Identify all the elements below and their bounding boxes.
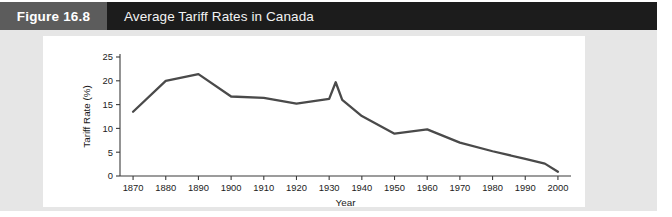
x-axis-tick-label: 1870: [123, 182, 144, 193]
x-axis-tick-label: 1980: [482, 182, 503, 193]
x-axis: 1870188018901900191019201930194019501960…: [120, 176, 571, 193]
x-axis-title-label: Year: [336, 197, 357, 207]
chart-panel: 0510152025 18701880189019001910192019301…: [43, 36, 585, 207]
x-axis-tick-label: 1900: [221, 182, 242, 193]
y-axis-tick-label: 10: [103, 123, 113, 134]
y-axis-tick-label: 25: [103, 51, 113, 62]
x-axis-tick-label: 1920: [286, 182, 307, 193]
x-axis-tick-label: 1890: [188, 182, 209, 193]
figure-title-block: Average Tariff Rates in Canada: [107, 2, 657, 30]
x-axis-tick-label: 1880: [155, 182, 176, 193]
y-axis-tick-label: 5: [108, 147, 113, 158]
x-axis-tick-label: 1950: [384, 182, 405, 193]
x-axis-tick-label: 1960: [417, 182, 438, 193]
figure-number-block: Figure 16.8: [0, 2, 107, 30]
tariff-rate-line-chart: 0510152025 18701880189019001910192019301…: [43, 36, 585, 207]
x-axis-title: Year: [336, 197, 357, 207]
figure-header-bar: Figure 16.8 Average Tariff Rates in Cana…: [0, 2, 657, 30]
data-line: [133, 74, 558, 172]
x-axis-tick-label: 1930: [319, 182, 340, 193]
x-axis-tick-label: 1970: [449, 182, 470, 193]
figure-title-label: Average Tariff Rates in Canada: [124, 9, 314, 24]
figure-container: Figure 16.8 Average Tariff Rates in Cana…: [0, 0, 672, 217]
x-axis-tick-label: 1990: [515, 182, 536, 193]
y-axis-title: Tariff Rate (%): [81, 85, 92, 147]
y-axis-tick-label: 20: [103, 75, 113, 86]
y-axis-tick-label: 0: [108, 170, 113, 181]
y-axis: 0510152025: [103, 51, 120, 181]
y-axis-tick-label: 15: [103, 99, 113, 110]
x-axis-tick-label: 1940: [351, 182, 372, 193]
x-axis-tick-label: 1910: [253, 182, 274, 193]
data-series-group: [133, 74, 558, 172]
chart-area: 0510152025 18701880189019001910192019301…: [43, 36, 585, 207]
y-axis-title-label: Tariff Rate (%): [81, 85, 92, 147]
figure-number-label: Figure 16.8: [17, 9, 90, 24]
x-axis-tick-label: 2000: [547, 182, 568, 193]
